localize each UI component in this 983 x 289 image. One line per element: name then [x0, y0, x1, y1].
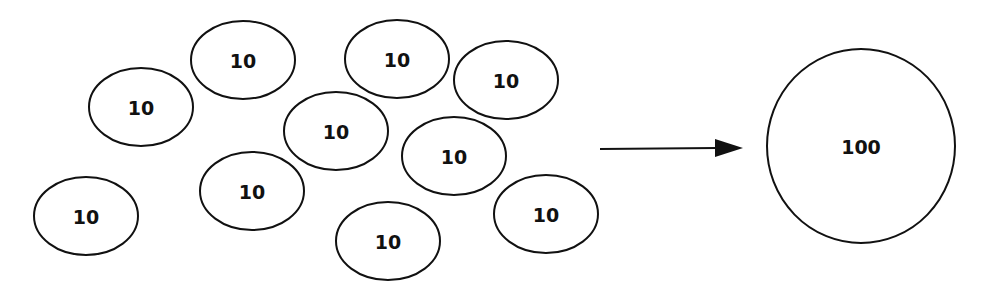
small-item: 10 — [494, 175, 598, 253]
small-item: 10 — [89, 68, 193, 146]
small-item: 10 — [284, 92, 388, 170]
small-item-label: 10 — [73, 206, 99, 228]
aggregation-diagram: 10 10 10 10 10 10 10 10 10 10 100 — [0, 0, 983, 289]
small-item-label: 10 — [323, 121, 349, 143]
small-item-label: 10 — [375, 231, 401, 253]
diagram-canvas: 10 10 10 10 10 10 10 10 10 10 100 — [0, 0, 983, 289]
small-item: 10 — [345, 20, 449, 98]
arrow-right-icon — [600, 139, 743, 157]
small-items-group: 10 10 10 10 10 10 10 10 10 10 — [34, 20, 598, 280]
small-item: 10 — [402, 117, 506, 195]
small-item: 10 — [34, 177, 138, 255]
result-label: 100 — [841, 136, 881, 158]
small-item-label: 10 — [384, 49, 410, 71]
small-item-label: 10 — [441, 146, 467, 168]
small-item: 10 — [191, 21, 295, 99]
small-item-label: 10 — [533, 204, 559, 226]
small-item-label: 10 — [239, 181, 265, 203]
small-item-label: 10 — [128, 97, 154, 119]
small-item: 10 — [336, 202, 440, 280]
result-item: 100 — [767, 49, 955, 243]
small-item-label: 10 — [230, 50, 256, 72]
arrow-head — [715, 139, 743, 157]
small-item: 10 — [200, 152, 304, 230]
arrow-shaft — [600, 148, 717, 149]
small-item: 10 — [454, 41, 558, 119]
small-item-label: 10 — [493, 70, 519, 92]
